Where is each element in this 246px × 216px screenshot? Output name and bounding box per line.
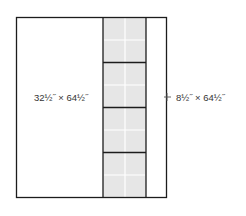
- quilt-diagram: 32½˝ × 64½˝ 8½˝ × 64½˝: [0, 0, 246, 216]
- right-panel-pointer: [164, 93, 171, 101]
- left-panel-dimension-label: 32½˝ × 64½˝: [34, 92, 89, 103]
- right-panel-dimension-label: 8½˝ × 64½˝: [176, 92, 226, 103]
